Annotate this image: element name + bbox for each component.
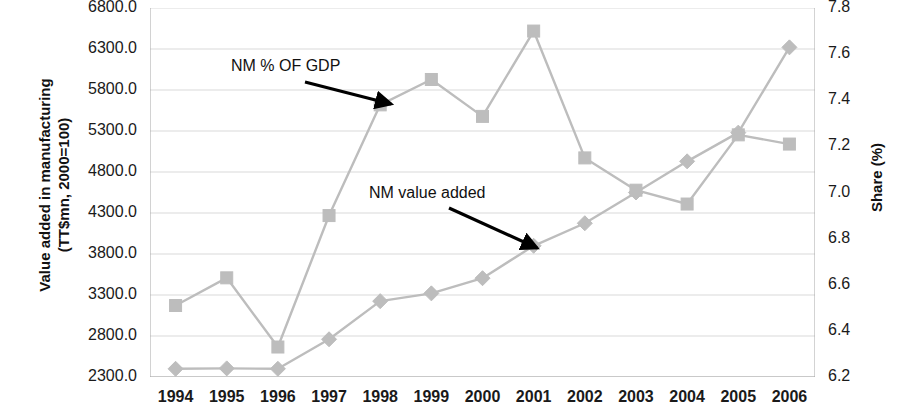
- x-axis-tick-label: 1995: [209, 388, 245, 406]
- series-line-1: [176, 47, 790, 368]
- data-point-marker: [272, 341, 284, 353]
- x-axis-tick-label: 2000: [465, 388, 501, 406]
- data-point-marker: [782, 40, 797, 55]
- data-point-marker: [374, 99, 386, 111]
- x-axis-tick-label: 1998: [362, 388, 398, 406]
- x-axis-tick-label: 1994: [158, 388, 194, 406]
- data-point-marker: [475, 271, 490, 286]
- x-axis-tick-label: 1996: [260, 388, 296, 406]
- data-point-marker: [630, 184, 642, 196]
- data-point-marker: [168, 361, 183, 376]
- data-point-marker: [221, 272, 233, 284]
- data-point-marker: [477, 110, 489, 122]
- data-point-marker: [170, 300, 182, 312]
- data-point-marker: [732, 129, 744, 141]
- x-axis-tick-label: 2001: [516, 388, 552, 406]
- x-axis-tick-label: 2002: [567, 388, 603, 406]
- annotation-nm-value-added: NM value added: [369, 184, 486, 202]
- annotation-nm-pct-gdp: NM % OF GDP: [231, 57, 340, 75]
- data-point-marker: [680, 154, 695, 169]
- x-axis-tick-label: 2005: [720, 388, 756, 406]
- data-point-marker: [681, 198, 693, 210]
- chart-figure: Value added in manufacturing (TT$mn, 200…: [0, 0, 917, 417]
- data-point-marker: [528, 25, 540, 37]
- data-point-marker: [270, 361, 285, 376]
- data-point-marker: [219, 361, 234, 376]
- x-axis-tick-label: 1997: [311, 388, 347, 406]
- data-point-marker: [577, 216, 592, 231]
- data-point-marker: [323, 210, 335, 222]
- data-point-marker: [783, 138, 795, 150]
- x-axis-tick-label: 2004: [669, 388, 705, 406]
- data-point-marker: [425, 73, 437, 85]
- data-point-marker: [579, 152, 591, 164]
- data-point-marker: [424, 286, 439, 301]
- x-axis-tick-label: 1999: [414, 388, 450, 406]
- x-axis-tick-label: 2006: [772, 388, 808, 406]
- data-point-marker: [526, 238, 541, 253]
- x-axis-tick-label: 2003: [618, 388, 654, 406]
